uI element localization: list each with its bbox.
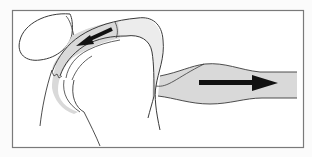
diagram-figure bbox=[0, 0, 312, 157]
